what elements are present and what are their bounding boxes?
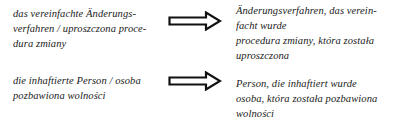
text-line: facht wurde	[236, 18, 377, 33]
text-line: verfahren / uproszczona proce-	[13, 21, 146, 36]
text-line: wolności	[236, 106, 377, 121]
entry-2-target-phrase: Person, die inhaftiert wurde osoba, któr…	[236, 76, 377, 121]
text-line: das vereinfachte Änderungs-	[13, 6, 146, 21]
text-line: Änderungsverfahren, das verein-	[236, 3, 377, 18]
right-arrow-icon	[168, 11, 222, 31]
text-line: Person, die inhaftiert wurde	[236, 76, 377, 91]
text-line: uproszczona	[236, 48, 377, 63]
text-line: die inhaftierte Person / osoba	[13, 73, 141, 88]
entry-1-target-phrase: Änderungsverfahren, das verein- facht wu…	[236, 3, 377, 63]
text-line: pozbawiona wolności	[13, 88, 141, 103]
entry-1-source-phrase: das vereinfachte Änderungs- verfahren / …	[13, 6, 146, 51]
right-arrow-icon	[168, 71, 222, 91]
text-line: dura zmiany	[13, 36, 146, 51]
entry-2-source-phrase: die inhaftierte Person / osoba pozbawion…	[13, 73, 141, 103]
text-line: osoba, która została pozbawiona	[236, 91, 377, 106]
text-line: procedura zmiany, która została	[236, 33, 377, 48]
